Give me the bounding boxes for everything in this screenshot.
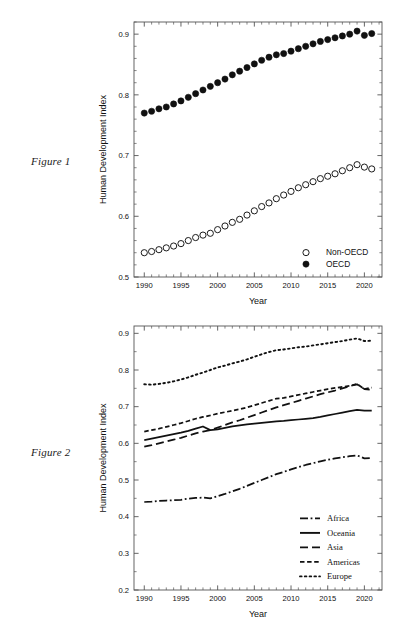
series-oceania <box>144 410 371 440</box>
data-point-filled <box>200 87 206 93</box>
legend-label: Africa <box>327 513 349 523</box>
data-point-filled <box>339 33 345 39</box>
data-point-filled <box>281 50 287 56</box>
data-point-open <box>229 219 235 225</box>
data-point-filled <box>222 76 228 82</box>
series-line <box>144 410 371 440</box>
data-point-open <box>295 185 301 191</box>
data-point-filled <box>288 48 294 54</box>
figure-2: 19901995200020052010201520200.20.30.40.5… <box>0 318 413 628</box>
data-point-filled <box>295 46 301 52</box>
x-tick-label: 1995 <box>173 594 190 603</box>
legend-marker-open <box>303 250 309 256</box>
plot-frame <box>134 22 382 277</box>
data-point-open <box>251 208 257 214</box>
data-point-open <box>178 241 184 247</box>
data-point-open <box>141 250 147 256</box>
x-tick-label: 1995 <box>173 281 190 290</box>
y-tick-label: 0.8 <box>118 91 129 100</box>
data-point-open <box>237 216 243 222</box>
data-point-filled <box>369 30 375 36</box>
data-point-filled <box>310 41 316 47</box>
data-point-filled <box>185 94 191 100</box>
legend-label: Oceania <box>327 528 355 538</box>
x-tick-label: 1990 <box>136 594 153 603</box>
data-point-filled <box>171 101 177 107</box>
data-point-open <box>185 237 191 243</box>
document-page: · ·· · Figure 1 Figure 2 199019952000200… <box>0 0 413 632</box>
x-axis-label: Year <box>249 296 267 306</box>
data-point-open <box>369 166 375 172</box>
x-tick-label: 2015 <box>319 281 336 290</box>
series-oecd <box>141 28 375 116</box>
y-tick-label: 0.5 <box>118 273 129 282</box>
data-point-filled <box>237 68 243 74</box>
data-point-filled <box>156 106 162 112</box>
legend: Non-OECDOECD <box>303 247 368 269</box>
data-point-filled <box>215 80 221 86</box>
series-line <box>144 384 371 432</box>
data-point-open <box>171 243 177 249</box>
data-point-filled <box>141 110 147 116</box>
figure-1: 19901995200020052010201520200.50.60.70.8… <box>0 6 413 316</box>
data-point-filled <box>259 57 265 63</box>
data-point-open <box>288 188 294 194</box>
data-point-filled <box>193 91 199 97</box>
x-tick-label: 2020 <box>356 594 373 603</box>
y-tick-label: 0.3 <box>118 549 129 558</box>
data-point-open <box>317 176 323 182</box>
legend-label: Asia <box>327 542 343 552</box>
data-point-filled <box>178 98 184 104</box>
y-tick-label: 0.7 <box>118 402 129 411</box>
data-point-filled <box>149 108 155 114</box>
x-tick-label: 2020 <box>356 281 373 290</box>
data-point-open <box>163 245 169 251</box>
series-africa <box>144 455 371 502</box>
data-point-open <box>361 164 367 170</box>
series-asia <box>144 384 371 446</box>
data-point-filled <box>266 54 272 60</box>
data-point-filled <box>251 61 257 67</box>
data-point-open <box>347 165 353 171</box>
data-point-open <box>310 179 316 185</box>
data-point-open <box>325 173 331 179</box>
legend-marker-filled <box>303 261 309 267</box>
series-group <box>141 28 375 256</box>
data-point-open <box>354 162 360 168</box>
x-tick-label: 2005 <box>246 594 263 603</box>
x-tick-label: 2010 <box>283 281 300 290</box>
series-line <box>144 455 371 502</box>
y-tick-label: 0.6 <box>118 212 129 221</box>
data-point-filled <box>207 83 213 89</box>
data-point-open <box>156 247 162 253</box>
y-axis-label: Human Development Index <box>98 94 108 204</box>
series-europe <box>144 338 371 384</box>
data-point-filled <box>273 52 279 58</box>
x-tick-label: 2000 <box>209 594 226 603</box>
data-point-filled <box>347 31 353 37</box>
y-tick-label: 0.6 <box>118 439 129 448</box>
y-tick-label: 0.9 <box>118 30 129 39</box>
data-point-filled <box>244 64 250 70</box>
y-tick-label: 0.2 <box>118 586 129 595</box>
data-point-filled <box>163 104 169 110</box>
x-tick-label: 1990 <box>136 281 153 290</box>
data-point-open <box>281 192 287 198</box>
data-point-open <box>303 182 309 188</box>
y-tick-label: 0.4 <box>118 512 129 521</box>
data-point-filled <box>229 72 235 78</box>
data-point-filled <box>361 32 367 38</box>
legend: AfricaOceaniaAsiaAmericasEurope <box>300 513 361 581</box>
legend-label: Europe <box>327 571 352 581</box>
y-tick-label: 0.5 <box>118 476 129 485</box>
data-point-open <box>193 234 199 240</box>
data-point-open <box>266 200 272 206</box>
series-non-oecd <box>141 162 375 256</box>
series-group <box>144 338 371 502</box>
y-tick-label: 0.9 <box>118 329 129 338</box>
plot-frame <box>134 326 382 590</box>
series-line <box>144 338 371 384</box>
series-line <box>144 384 371 446</box>
y-tick-label: 0.7 <box>118 151 129 160</box>
data-point-open <box>207 230 213 236</box>
